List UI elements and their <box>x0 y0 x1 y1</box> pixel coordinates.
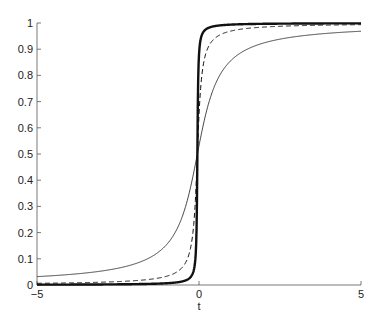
axes: 00.10.20.30.40.50.60.70.80.91−505 <box>18 17 364 300</box>
y-tick-label: 0.9 <box>18 43 33 55</box>
y-tick-label: 0.1 <box>18 253 33 265</box>
y-tick-label: 0.6 <box>18 122 33 134</box>
series-thick-solid <box>37 23 361 284</box>
x-tick-label: −5 <box>31 288 44 300</box>
y-tick-label: 0.2 <box>18 227 33 239</box>
y-tick-label: 0.8 <box>18 69 33 81</box>
plot-lines <box>37 23 361 284</box>
cdf-chart: 00.10.20.30.40.50.60.70.80.91−505 t <box>0 0 383 324</box>
y-tick-label: 0.7 <box>18 96 33 108</box>
y-tick-label: 0.5 <box>18 148 33 160</box>
x-tick-label: 0 <box>196 288 202 300</box>
y-tick-label: 1 <box>27 17 33 29</box>
x-tick-label: 5 <box>358 288 364 300</box>
y-tick-label: 0.3 <box>18 200 33 212</box>
x-axis-label: t <box>197 300 200 312</box>
y-tick-label: 0.4 <box>18 174 33 186</box>
